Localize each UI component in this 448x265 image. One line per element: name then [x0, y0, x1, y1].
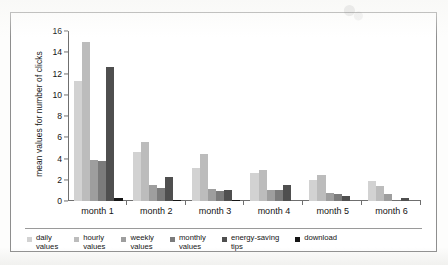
legend-swatch	[295, 237, 300, 242]
bar	[149, 185, 157, 201]
y-tick-label: 6	[57, 132, 68, 142]
bar	[74, 81, 82, 201]
legend-swatch	[170, 237, 175, 242]
bar	[283, 185, 291, 201]
legend-label: weekly values	[130, 234, 154, 251]
legend-swatch	[27, 237, 32, 242]
bar	[401, 198, 409, 201]
bar	[114, 198, 122, 201]
bar	[368, 181, 376, 201]
bar	[133, 152, 141, 201]
legend-item[interactable]: monthly values	[170, 234, 206, 251]
legend-item[interactable]: daily values	[27, 234, 58, 251]
y-tick-label: 16	[52, 26, 68, 36]
x-tick-mark	[420, 201, 421, 205]
y-tick-label: 8	[57, 111, 68, 121]
x-tick-mark	[302, 201, 303, 205]
bar	[250, 173, 258, 201]
legend-label: download	[304, 234, 337, 243]
bar	[216, 191, 224, 201]
bar-group	[186, 31, 245, 201]
bar	[165, 177, 173, 201]
y-axis-title: mean values for number of clicks	[34, 34, 44, 194]
bar	[98, 161, 106, 201]
bar	[275, 190, 283, 201]
x-axis-label: month 2	[127, 206, 186, 216]
x-axis-label: month 5	[303, 206, 362, 216]
chart-legend: daily valueshourly valuesweekly valuesmo…	[27, 234, 426, 251]
bar	[173, 200, 181, 201]
y-tick-label: 4	[57, 154, 68, 164]
legend-item[interactable]: hourly values	[74, 234, 105, 251]
bar	[267, 190, 275, 201]
legend-swatch	[74, 237, 79, 242]
bar-group	[303, 31, 362, 201]
bar-chart: mean values for number of clicks 0246810…	[11, 13, 436, 251]
bar-group	[127, 31, 186, 201]
x-axis-label: month 6	[362, 206, 421, 216]
legend-swatch	[121, 237, 126, 242]
bar	[90, 160, 98, 201]
legend-swatch	[222, 237, 227, 242]
bar-group	[244, 31, 303, 201]
legend-item[interactable]: energy-saving tips	[222, 234, 279, 251]
legend-label: hourly values	[83, 234, 105, 251]
legend-label: monthly values	[179, 234, 206, 251]
x-axis-labels: month 1month 2month 3month 4month 5month…	[68, 206, 421, 216]
bar	[232, 200, 240, 201]
bar	[326, 193, 334, 202]
legend-label: energy-saving tips	[231, 234, 279, 251]
bar	[82, 42, 90, 201]
bar-group	[362, 31, 421, 201]
bar	[200, 154, 208, 201]
bar	[342, 196, 350, 201]
x-axis-label: month 1	[68, 206, 127, 216]
x-tick-mark	[243, 201, 244, 205]
bar	[309, 180, 317, 201]
x-tick-mark	[361, 201, 362, 205]
legend-item[interactable]: weekly values	[121, 234, 154, 251]
bar	[106, 67, 114, 201]
y-tick-label: 12	[52, 69, 68, 79]
y-tick-label: 2	[57, 175, 68, 185]
scanned-page: mean values for number of clicks 0246810…	[0, 0, 448, 265]
bar	[208, 189, 216, 201]
figure-frame: mean values for number of clicks 0246810…	[10, 12, 437, 252]
x-axis-label: month 4	[244, 206, 303, 216]
plot-area: 0246810121416	[68, 31, 421, 201]
x-tick-mark	[185, 201, 186, 205]
bar	[192, 168, 200, 201]
bar	[384, 194, 392, 201]
legend-divider	[25, 228, 422, 229]
bar	[317, 175, 325, 201]
x-axis-label: month 3	[186, 206, 245, 216]
y-tick-label: 14	[52, 47, 68, 57]
bar-groups	[68, 31, 421, 201]
bar	[224, 190, 232, 201]
x-tick-mark	[126, 201, 127, 205]
legend-label: daily values	[36, 234, 58, 251]
y-tick-label: 10	[52, 90, 68, 100]
bar	[157, 188, 165, 201]
legend-item[interactable]: download	[295, 234, 337, 243]
y-tick-label: 0	[57, 196, 68, 206]
bar	[334, 194, 342, 201]
bar	[141, 142, 149, 201]
bar	[376, 186, 384, 201]
bar-group	[68, 31, 127, 201]
bar	[259, 170, 267, 201]
